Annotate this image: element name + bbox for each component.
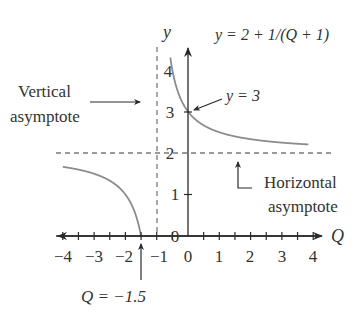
equation-label: y = 2 + 1/(Q + 1) [213, 26, 329, 44]
y-axis [184, 48, 192, 236]
x-tick-label: −3 [85, 247, 103, 266]
x-axis-label: Q [331, 226, 344, 246]
x-tick-label: −1 [150, 247, 168, 266]
x-tick-label: −2 [115, 247, 133, 266]
y-tick-label: 3 [166, 103, 175, 122]
x-axis [56, 232, 322, 240]
x-tick-label: 4 [309, 247, 318, 266]
x-tick-label: −4 [54, 247, 73, 266]
x-tick-label: 3 [278, 247, 287, 266]
y-tick-label: 2 [166, 144, 175, 163]
curve-left-branch [63, 167, 141, 236]
horizontal-asymptote-label-line1: Horizontal [264, 173, 337, 192]
vertical-asymptote-label-line2: asymptote [10, 107, 80, 126]
equation-text: y = 2 + 1/(Q + 1) [213, 26, 329, 44]
x-tick-label: 1 [215, 247, 224, 266]
chart: −4 −3 −2 −1 0 1 2 3 4 0 1 2 3 4 y Q y = … [0, 0, 356, 313]
horizontal-asymptote-label-line2: asymptote [268, 197, 338, 216]
y3-label: y = 3 [224, 87, 260, 105]
y-tick-label: 0 [171, 227, 180, 246]
y-tick-label: 4 [164, 62, 173, 81]
x-tick-label: 2 [246, 247, 255, 266]
y-tick-label: 1 [171, 185, 180, 204]
x-tick-label: 0 [184, 247, 193, 266]
y3-arrow [194, 99, 222, 110]
horizontal-asymptote-arrow [238, 162, 252, 188]
x-tick-labels: −4 −3 −2 −1 0 1 2 3 4 [54, 247, 318, 266]
y-axis-label: y [161, 22, 171, 42]
q15-label: Q = −1.5 [81, 287, 146, 306]
vertical-asymptote-label-line1: Vertical [18, 82, 71, 101]
